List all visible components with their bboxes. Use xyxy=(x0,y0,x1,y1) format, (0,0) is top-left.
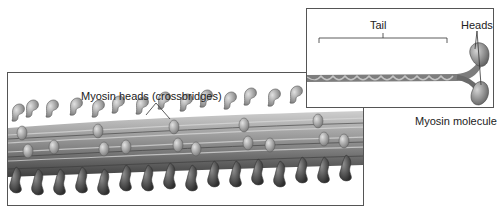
tail-label: Tail xyxy=(370,19,387,31)
myosin-molecule-panel: Tail Heads xyxy=(306,8,494,108)
myosin-molecule-caption: Myosin molecule xyxy=(415,115,497,127)
filament-rods xyxy=(8,111,364,177)
crossbridges-label: Myosin heads (crossbridges) xyxy=(81,90,222,102)
myosin-tail xyxy=(307,63,481,89)
crossbridge-callout-lines xyxy=(146,103,170,119)
tail-bracket xyxy=(319,33,447,43)
heads-label: Heads xyxy=(461,19,493,31)
